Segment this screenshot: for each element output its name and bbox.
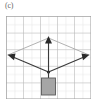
figure-panel: (c) [0,0,96,102]
grid-diagram [6,16,91,99]
hanging-block [42,78,56,95]
diagram-canvas [6,16,91,99]
panel-label: (c) [5,1,13,11]
